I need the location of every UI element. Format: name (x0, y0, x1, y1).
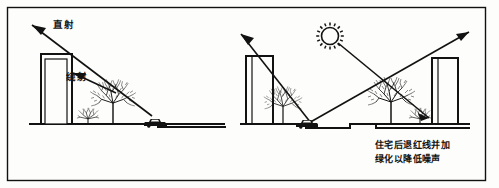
right-panel-caption-line2: 绿化以降低噪声 (375, 153, 441, 164)
right-panel-right-building (432, 58, 458, 124)
left-direct-ray-label: 直射 (53, 19, 74, 30)
right-panel-left-building (246, 56, 273, 124)
figure-root: 直射 绕射 (0, 0, 499, 188)
right-panel-caption-line1: 住宅后退红线并加 (375, 139, 450, 150)
left-diffracted-ray-label: 绕射 (66, 71, 87, 82)
left-tall-building (41, 54, 72, 124)
noise-diagram-svg: 直射 绕射 (0, 0, 499, 188)
